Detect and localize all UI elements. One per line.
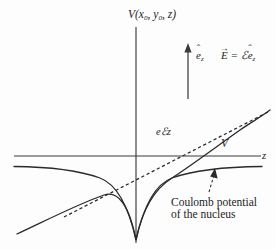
z-axis-label: z — [262, 150, 266, 161]
field-equation-label: E = ℰez — [221, 50, 255, 62]
linear-term-label: eℰz — [156, 126, 171, 137]
e-hat-subscript: z — [201, 55, 204, 62]
equals-sign: = — [228, 49, 241, 61]
x0-subscript: 0 — [144, 14, 148, 22]
caption-leader-arrow — [209, 168, 218, 192]
coulomb-caption: Coulomb potential of the nucleus — [171, 196, 257, 220]
total-potential-label: V — [221, 137, 228, 149]
v-open: V( — [128, 8, 139, 20]
caption-line-1: Coulomb potential — [171, 196, 257, 208]
potential-diagram-figure: V(x0, y0, z) ez E = ℰez eℰz V z Coulomb … — [0, 0, 276, 249]
unit-vector-label: ez — [196, 50, 204, 62]
y0-subscript: 0 — [158, 14, 162, 22]
field-direction-arrow — [184, 43, 191, 99]
field-vector-symbol: E — [221, 50, 228, 62]
field-unit-vector-symbol: e — [248, 50, 253, 62]
field-unit-subscript: z — [253, 55, 256, 62]
v-close: ) — [172, 8, 176, 20]
total-potential-curve — [17, 110, 270, 240]
field-magnitude-symbol: ℰ — [241, 49, 248, 61]
vertical-axis-label: V(x0, y0, z) — [128, 8, 176, 20]
caption-line-2: of the nucleus — [171, 208, 257, 220]
